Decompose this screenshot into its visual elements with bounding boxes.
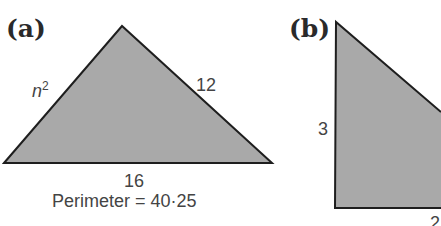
panel-label-b: (b) xyxy=(289,16,330,41)
side-label-b-left: 3 xyxy=(318,120,328,138)
side-label-a-bottom: 16 xyxy=(124,172,144,190)
side-label-b-bottom: 2 xyxy=(430,214,440,226)
perimeter-caption: Perimeter = 40·25 xyxy=(52,192,197,210)
side-label-a-left-exponent: 2 xyxy=(42,79,49,93)
side-label-a-left: n2 xyxy=(32,80,49,100)
panel-label-a: (a) xyxy=(6,16,46,41)
side-label-a-left-base: n xyxy=(32,81,42,101)
side-label-a-right: 12 xyxy=(196,76,216,94)
triangle-b xyxy=(335,22,441,208)
figure-canvas: (a) n2 12 16 Perimeter = 40·25 (b) 3 2 xyxy=(0,0,441,226)
